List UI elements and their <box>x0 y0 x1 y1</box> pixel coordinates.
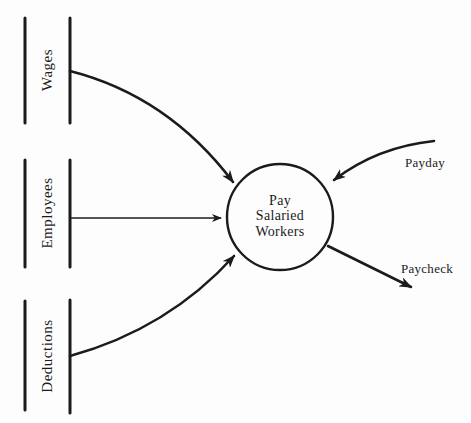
data-store-wages: Wages <box>25 18 70 123</box>
deductions-store-label: Deductions <box>39 319 55 392</box>
employees-store-label: Employees <box>39 177 55 248</box>
payday-flow-label: Payday <box>405 155 445 170</box>
dataflow-diagram: Wages Employees Deductions Payday Payche… <box>0 0 471 423</box>
diagram-canvas: Wages Employees Deductions Payday Payche… <box>0 0 471 423</box>
process-label-line1: Pay <box>269 193 291 208</box>
deductions-flow-arrow <box>70 256 234 356</box>
process-label-line3: Workers <box>255 224 304 239</box>
data-store-employees: Employees <box>25 160 70 267</box>
paycheck-flow-arrow <box>328 246 411 287</box>
process-label-line2: Salaried <box>256 208 304 223</box>
paycheck-flow-label: Paycheck <box>401 261 453 276</box>
wages-flow-arrow <box>70 71 233 182</box>
data-store-deductions: Deductions <box>25 300 70 413</box>
process-pay-salaried-workers: Pay Salaried Workers <box>227 164 333 270</box>
wages-store-label: Wages <box>39 49 55 91</box>
